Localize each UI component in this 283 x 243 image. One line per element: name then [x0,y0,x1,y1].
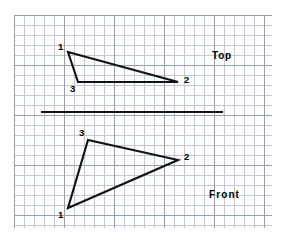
orthographic-projection-sheet: Top Front 1 2 3 1 2 3 [0,0,283,243]
top-view-vertex-label-3: 3 [70,84,75,94]
front-view-group [68,140,178,208]
top-view-vertex-label-1: 1 [58,42,63,52]
top-view-vertex-label-2: 2 [184,75,189,85]
front-view-vertex-label-1: 1 [58,210,63,220]
top-view-triangle [68,52,178,82]
view-label-front: Front [209,189,240,200]
view-label-top: Top [212,50,232,61]
top-view-group [68,52,178,82]
front-view-triangle [68,140,178,208]
front-view-vertex-label-3: 3 [79,128,84,138]
front-view-vertex-label-2: 2 [184,152,189,162]
projection-views-svg [0,0,283,243]
